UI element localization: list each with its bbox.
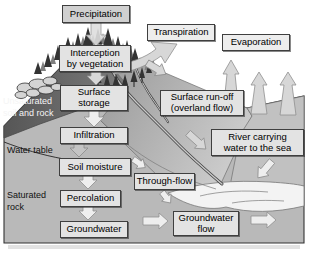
box-groundwater-flow: Groundwater flow bbox=[173, 211, 239, 236]
box-river-to-sea: River carrying water to the sea bbox=[211, 129, 304, 156]
box-interception: Interception by vegetation bbox=[59, 45, 131, 72]
evaporation-up-arrow-3 bbox=[280, 72, 296, 115]
label-unsaturated-zone: Unsaturated soil and rock bbox=[3, 95, 54, 119]
box-surface-runoff: Surface run-off (overland flow) bbox=[160, 90, 244, 116]
box-infiltration: Infiltration bbox=[60, 127, 128, 144]
label-saturated-rock: Saturated rock bbox=[7, 189, 46, 213]
box-through-flow: Through-flow bbox=[134, 173, 195, 190]
water-cycle-diagram: Precipitation Transpiration Evaporation … bbox=[0, 0, 313, 255]
box-soil-moisture: Soil moisture bbox=[59, 158, 131, 176]
box-percolation: Percolation bbox=[60, 190, 121, 207]
box-surface-storage: Surface storage bbox=[60, 85, 128, 111]
box-transpiration: Transpiration bbox=[147, 24, 215, 41]
label-water-table: Water table bbox=[7, 144, 53, 156]
block-shadow bbox=[8, 245, 300, 249]
evaporation-up-arrow-2 bbox=[251, 72, 267, 114]
box-evaporation: Evaporation bbox=[222, 34, 290, 51]
box-groundwater: Groundwater bbox=[60, 221, 128, 238]
box-precipitation: Precipitation bbox=[62, 5, 130, 23]
